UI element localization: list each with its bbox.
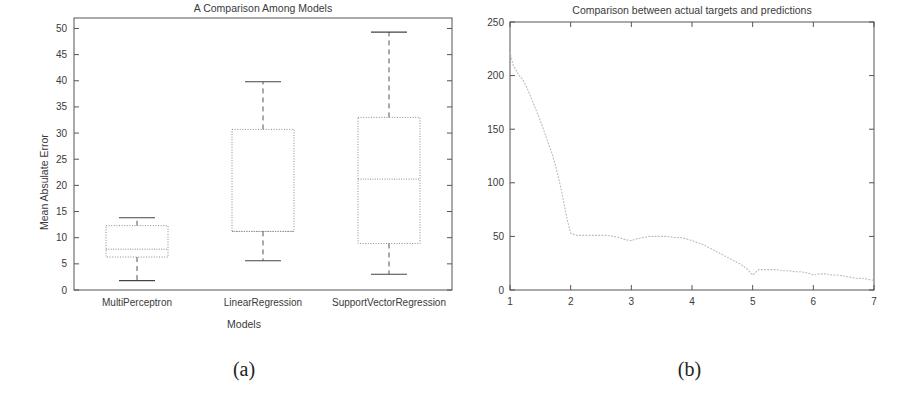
x-tick-label: 7 — [871, 296, 877, 307]
y-tick-label: 35 — [56, 101, 68, 112]
y-tick-label: 50 — [493, 231, 505, 242]
y-tick-label: 10 — [56, 232, 68, 243]
x-category-label: LinearRegression — [224, 297, 302, 308]
x-tick-label: 4 — [689, 296, 695, 307]
boxplot-box — [358, 32, 420, 274]
boxplot-box — [106, 218, 168, 281]
boxplot-svg: 05101520253035404550MultiPerceptronLinea… — [24, 0, 464, 330]
x-category-label: SupportVectorRegression — [332, 297, 446, 308]
y-tick-label: 40 — [56, 75, 68, 86]
x-tick-label: 2 — [568, 296, 574, 307]
y-tick-label: 15 — [56, 206, 68, 217]
linechart-svg: 0501001502002501234567 — [468, 0, 911, 330]
linechart-axes-frame — [510, 22, 874, 290]
y-tick-label: 50 — [56, 23, 68, 34]
box-iqr — [106, 226, 168, 257]
y-tick-label: 5 — [61, 258, 67, 269]
y-tick-label: 30 — [56, 128, 68, 139]
subfigure-caption-a: (a) — [24, 358, 464, 381]
y-tick-label: 250 — [487, 17, 504, 28]
y-tick-label: 45 — [56, 49, 68, 60]
y-tick-label: 200 — [487, 70, 504, 81]
box-iqr — [232, 129, 294, 231]
boxplot-plot-area: 05101520253035404550MultiPerceptronLinea… — [24, 0, 464, 330]
y-tick-label: 100 — [487, 177, 504, 188]
y-tick-label: 0 — [61, 285, 67, 296]
x-tick-label: 5 — [750, 296, 756, 307]
x-category-label: MultiPerceptron — [102, 297, 172, 308]
y-tick-label: 0 — [498, 285, 504, 296]
linechart-plot-area: 0501001502002501234567 — [468, 0, 911, 330]
subfigure-caption-b: (b) — [468, 358, 911, 381]
x-tick-label: 3 — [629, 296, 635, 307]
y-tick-label: 20 — [56, 180, 68, 191]
y-tick-label: 25 — [56, 154, 68, 165]
box-iqr — [358, 117, 420, 243]
figure-container: A Comparison Among Models Mean Absulate … — [0, 0, 911, 408]
subfigure-a: A Comparison Among Models Mean Absulate … — [24, 0, 464, 408]
x-tick-label: 6 — [811, 296, 817, 307]
prediction-curve-line — [510, 52, 874, 280]
y-tick-label: 150 — [487, 124, 504, 135]
subfigure-b: Comparison between actual targets and pr… — [468, 0, 911, 408]
boxplot-box — [232, 82, 294, 261]
x-tick-label: 1 — [507, 296, 513, 307]
